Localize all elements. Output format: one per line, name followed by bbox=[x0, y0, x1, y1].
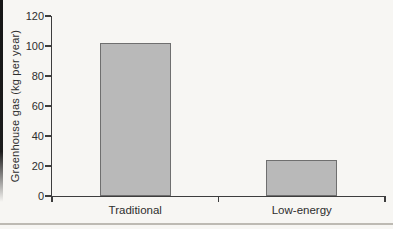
figure-divider-rule bbox=[0, 223, 393, 225]
y-tick-label: 100 bbox=[0, 40, 44, 52]
y-tick-mark bbox=[45, 165, 51, 166]
y-tick-mark bbox=[45, 195, 51, 196]
bar-traditional bbox=[100, 43, 171, 196]
scanned-figure-page: Greenhouse gas (kg per year) 02040608010… bbox=[0, 0, 393, 229]
y-tick-label: 0 bbox=[0, 190, 44, 202]
y-tick-mark bbox=[45, 105, 51, 106]
bar-low-energy bbox=[266, 160, 337, 196]
y-tick-label: 40 bbox=[0, 130, 44, 142]
y-tick-mark bbox=[45, 15, 51, 16]
y-tick-mark bbox=[45, 45, 51, 46]
x-tick-mark bbox=[218, 196, 219, 202]
y-tick-label: 120 bbox=[0, 10, 44, 22]
y-tick-label: 60 bbox=[0, 100, 44, 112]
y-tick-label: 20 bbox=[0, 160, 44, 172]
x-category-label: Traditional bbox=[80, 204, 190, 217]
greenhouse-gas-bar-chart: Greenhouse gas (kg per year) 02040608010… bbox=[0, 0, 393, 229]
x-tick-mark bbox=[384, 196, 385, 202]
y-tick-mark bbox=[45, 75, 51, 76]
x-category-label: Low-energy bbox=[247, 204, 357, 217]
y-axis-line bbox=[51, 16, 53, 198]
y-tick-label: 80 bbox=[0, 70, 44, 82]
y-tick-mark bbox=[45, 135, 51, 136]
x-tick-mark bbox=[51, 196, 52, 202]
